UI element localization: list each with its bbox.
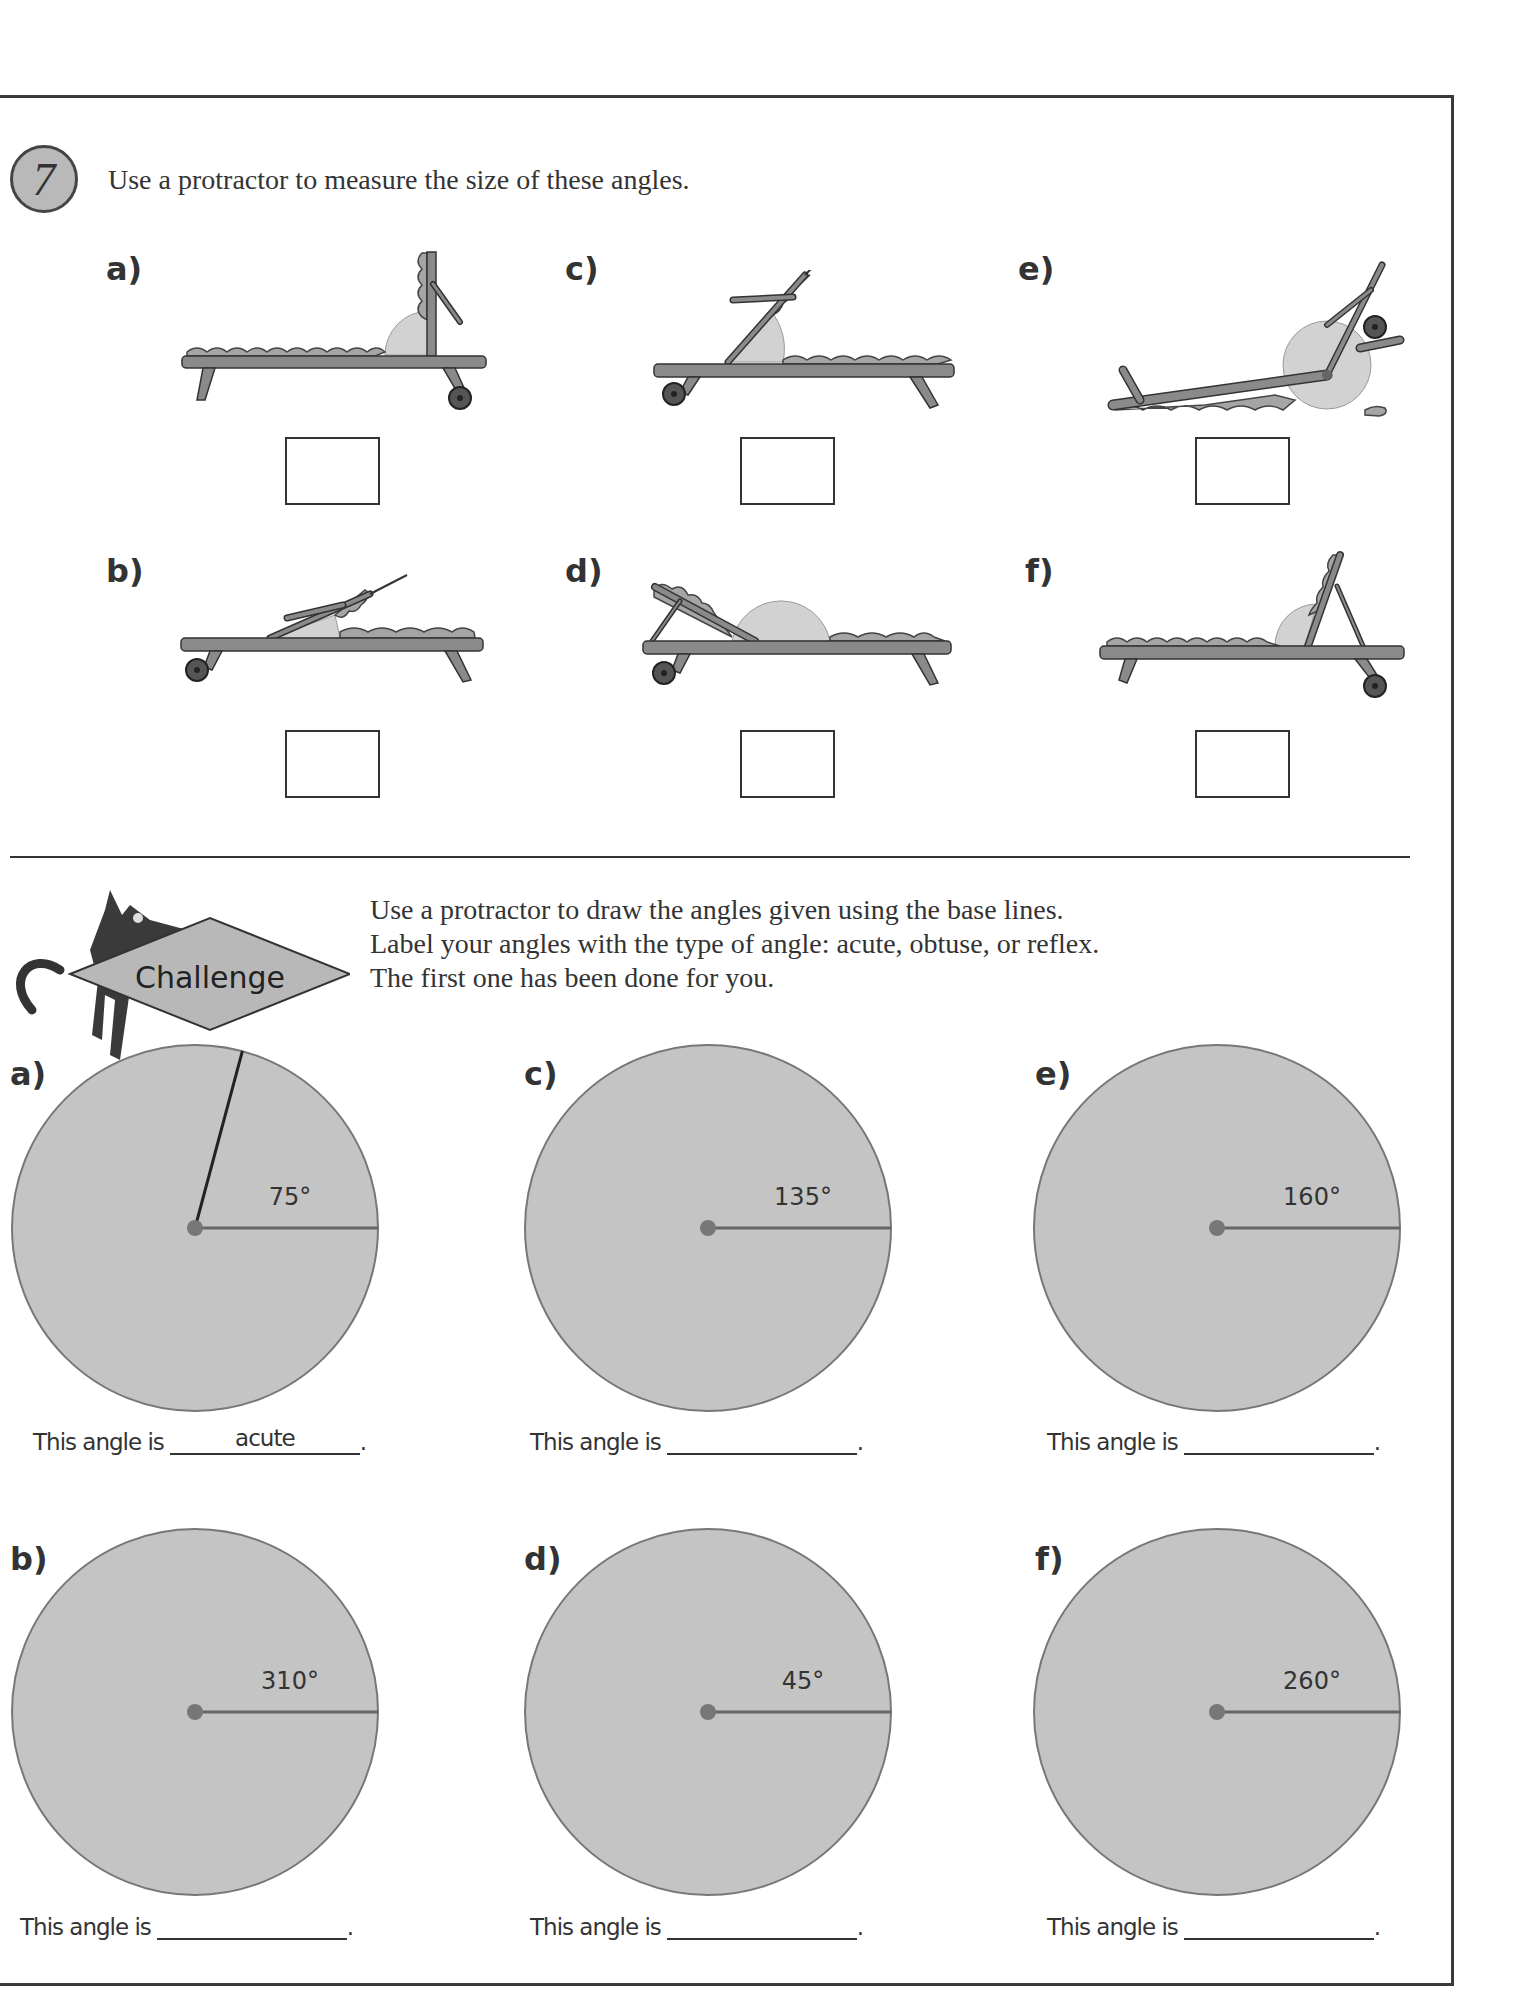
sentence-prefix: This angle is — [1047, 1429, 1178, 1455]
page-frame-right — [1451, 95, 1454, 1985]
angle-type-sentence-a: This angle isacute. — [33, 1425, 366, 1455]
angle-type-sentence-b: This angle is. — [20, 1910, 353, 1940]
challenge-badge: Challenge — [10, 870, 350, 1070]
sun-lounger-e — [1095, 260, 1415, 420]
answer-box-a[interactable] — [285, 437, 380, 505]
angle-type-answer-field[interactable] — [1184, 1910, 1374, 1940]
angle-type-answer-field[interactable] — [1184, 1425, 1374, 1455]
angle-value-c: 135° — [774, 1183, 832, 1211]
question-label-f: f) — [1025, 552, 1054, 590]
angle-value-d: 45° — [782, 1667, 825, 1695]
sentence-prefix: This angle is — [530, 1914, 661, 1940]
angle-type-sentence-c: This angle is. — [530, 1425, 863, 1455]
challenge-instruction-line: Use a protractor to draw the angles give… — [370, 893, 1099, 927]
section-divider — [10, 856, 1410, 858]
answer-box-e[interactable] — [1195, 437, 1290, 505]
angle-circle-c[interactable] — [522, 1042, 894, 1414]
vertex-dot — [700, 1220, 716, 1236]
rat-tail — [20, 964, 60, 1010]
challenge-instruction-line: Label your angles with the type of angle… — [370, 927, 1099, 961]
answer-box-b[interactable] — [285, 730, 380, 798]
question-label-a: a) — [106, 250, 142, 288]
sentence-prefix: This angle is — [20, 1914, 151, 1940]
sun-lounger-a — [175, 250, 495, 420]
page-frame-bottom — [0, 1983, 1454, 1986]
page-frame-top — [0, 95, 1454, 98]
angle-type-answer-field[interactable] — [157, 1910, 347, 1940]
question-label-e: e) — [1018, 250, 1054, 288]
exercise-number: 7 — [33, 153, 56, 206]
question-label-b: b) — [106, 552, 144, 590]
vertex-dot — [1209, 1220, 1225, 1236]
sentence-suffix: . — [1374, 1429, 1380, 1455]
cushion — [187, 348, 385, 356]
answer-box-f[interactable] — [1195, 730, 1290, 798]
angle-circle-e[interactable] — [1031, 1042, 1403, 1414]
angle-value-e: 160° — [1283, 1183, 1341, 1211]
sentence-suffix: . — [857, 1914, 863, 1940]
sentence-prefix: This angle is — [530, 1429, 661, 1455]
angle-type-sentence-f: This angle is. — [1047, 1910, 1380, 1940]
angle-arc — [1283, 321, 1371, 409]
vertex-dot — [700, 1704, 716, 1720]
sentence-suffix: . — [347, 1914, 353, 1940]
sentence-suffix: . — [857, 1429, 863, 1455]
sun-lounger-f — [1095, 550, 1415, 700]
sun-lounger-d — [640, 575, 960, 705]
sentence-suffix: . — [360, 1429, 366, 1455]
angle-circle-d[interactable] — [522, 1526, 894, 1898]
angle-circle-a[interactable] — [9, 1042, 381, 1414]
answer-box-c[interactable] — [740, 437, 835, 505]
challenge-label: Challenge — [135, 960, 285, 995]
angle-value-f: 260° — [1283, 1667, 1341, 1695]
sentence-suffix: . — [1374, 1914, 1380, 1940]
angle-type-sentence-d: This angle is. — [530, 1910, 863, 1940]
exercise-number-badge: 7 — [10, 145, 78, 213]
challenge-instructions: Use a protractor to draw the angles give… — [370, 893, 1099, 995]
exercise-instruction: Use a protractor to measure the size of … — [108, 164, 690, 196]
answer-box-d[interactable] — [740, 730, 835, 798]
question-label-d: d) — [565, 552, 603, 590]
sun-lounger-c — [648, 270, 958, 420]
angle-circle-f[interactable] — [1031, 1526, 1403, 1898]
vertex-dot — [1209, 1704, 1225, 1720]
angle-value-a: 75° — [269, 1183, 312, 1211]
angle-type-answer-field[interactable]: acute — [170, 1425, 360, 1455]
angle-circle-b[interactable] — [9, 1526, 381, 1898]
sentence-prefix: This angle is — [33, 1429, 164, 1455]
question-label-c: c) — [565, 250, 599, 288]
angle-type-answer-field[interactable] — [667, 1425, 857, 1455]
vertex-dot — [187, 1220, 203, 1236]
angle-type-answer-field[interactable] — [667, 1910, 857, 1940]
vertex-dot — [187, 1704, 203, 1720]
sun-lounger-b — [175, 570, 495, 700]
sentence-prefix: This angle is — [1047, 1914, 1178, 1940]
angle-type-sentence-e: This angle is. — [1047, 1425, 1380, 1455]
angle-value-b: 310° — [261, 1667, 319, 1695]
challenge-instruction-line: The first one has been done for you. — [370, 961, 1099, 995]
